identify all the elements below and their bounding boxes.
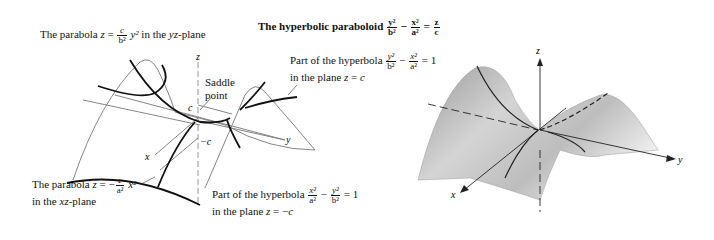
x-axis-label-left: x bbox=[144, 151, 150, 162]
y-axis-label-right: y bbox=[677, 154, 683, 165]
z-arrow-icon bbox=[537, 58, 543, 66]
x-axis-label-right: x bbox=[450, 189, 456, 200]
hyperbola-top-pointer bbox=[288, 85, 297, 95]
surface-outline-back-left bbox=[73, 60, 175, 180]
parabola-xz-pointer bbox=[143, 177, 155, 183]
z-axis-label-right: z bbox=[535, 45, 540, 56]
plane-line-2 bbox=[115, 95, 285, 140]
hyperbola-bottom-branch bbox=[158, 122, 195, 187]
label-parabola-xz: The parabola z = −ca² x² in the xz-plane bbox=[32, 176, 136, 208]
label-hyperbola-bottom: Part of the hyperbola x²a² − y²b² = 1 in… bbox=[212, 186, 358, 218]
saddle-surface bbox=[418, 67, 658, 200]
label-saddle-point: Saddle point bbox=[205, 76, 235, 102]
neg-c-label: −c bbox=[200, 136, 212, 147]
hyperbola-top-left-branch bbox=[98, 65, 166, 95]
y-axis-label-left: y bbox=[285, 134, 291, 145]
x-arrow-icon bbox=[460, 185, 469, 193]
c-label: c bbox=[188, 102, 193, 113]
z-axis-label-left: z bbox=[195, 51, 200, 62]
y-arrow-icon bbox=[666, 155, 676, 162]
hyperbola-bottom-right-branch bbox=[227, 120, 240, 148]
label-parabola-yz: The parabola z = cb² y² in the yz-plane bbox=[40, 26, 206, 45]
label-hyperbola-top: Part of the hyperbola y²b² − x²a² = 1 in… bbox=[290, 52, 436, 84]
